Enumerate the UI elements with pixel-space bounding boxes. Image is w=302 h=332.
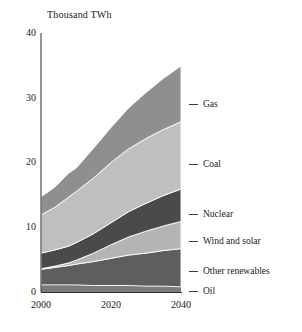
legend-item-label: Oil	[203, 286, 215, 297]
x-tick-label-2020: 2020	[91, 300, 131, 310]
x-tick-label-2040: 2040	[161, 300, 201, 310]
legend-item-label: Wind and solar	[203, 236, 261, 247]
legend-item-label: Gas	[203, 99, 218, 110]
legend-dash-icon	[189, 164, 198, 165]
legend-item-oil: Oil	[189, 286, 215, 297]
legend-item-coal: Coal	[189, 159, 221, 170]
legend-dash-icon	[189, 214, 198, 215]
legend-dash-icon	[189, 104, 198, 105]
legend-dash-icon	[189, 271, 198, 272]
legend-item-label: Nuclear	[203, 209, 233, 220]
x-tick-label-2000: 2000	[21, 300, 61, 310]
plot-surface	[0, 0, 302, 332]
legend-dash-icon	[189, 241, 198, 242]
stacked-area-chart: Thousand TWh 403020100 200020202040 GasC…	[0, 0, 302, 332]
legend-item-gas: Gas	[189, 99, 218, 110]
legend-item-wind-and-solar: Wind and solar	[189, 236, 261, 247]
legend-item-nuclear: Nuclear	[189, 209, 233, 220]
legend-item-other-renewables: Other renewables	[189, 266, 270, 277]
legend-item-label: Coal	[203, 159, 221, 170]
legend-item-label: Other renewables	[203, 266, 270, 277]
legend-dash-icon	[189, 291, 198, 292]
